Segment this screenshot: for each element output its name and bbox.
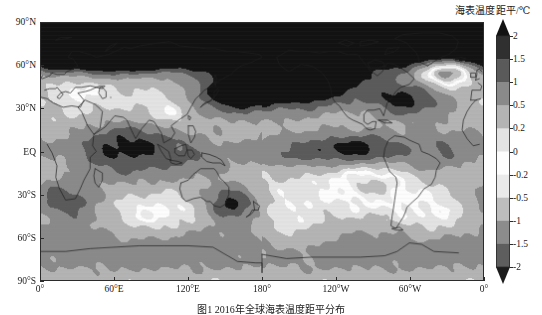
figure-caption: 图1 2016年全球海表温度距平分布 <box>0 301 542 315</box>
colorbar-band <box>496 59 510 83</box>
colorbar-band <box>496 221 510 245</box>
y-tick-label: 60°N <box>0 60 36 70</box>
x-tick-mark <box>114 277 115 281</box>
x-tick-label: 120°W <box>322 284 349 294</box>
x-tick-mark <box>188 277 189 281</box>
x-tick-label: 120°E <box>176 284 200 294</box>
x-tick-label: 180° <box>253 284 271 294</box>
colorbar-tick-mark <box>510 152 513 153</box>
colorbar-extend-max <box>496 19 510 36</box>
y-tick-label: 90°N <box>0 17 36 27</box>
colorbar-tick-mark <box>510 221 513 222</box>
colorbar-tick-mark <box>510 105 513 106</box>
colorbar-tick-mark <box>510 244 513 245</box>
colorbar-band <box>496 175 510 199</box>
y-tick-mark <box>40 22 44 23</box>
y-tick-label: 90°S <box>0 276 36 286</box>
x-tick-label: 60°E <box>104 284 123 294</box>
colorbar-band <box>496 128 510 152</box>
figure-sst-anomaly-map: 海表温度距平/℃ 90°N60°N30°NEQ30°S60°S90°S 0°60… <box>0 0 542 315</box>
colorbar-tick-mark <box>510 128 513 129</box>
colorbar-band <box>496 36 510 60</box>
y-tick-label: 30°N <box>0 103 36 113</box>
x-tick-mark <box>262 277 263 281</box>
colorbar-tick-label: 1.5 <box>513 54 525 64</box>
x-tick-mark <box>410 277 411 281</box>
colorbar-tick-label: -1.5 <box>513 239 528 249</box>
x-tick-mark <box>40 277 41 281</box>
x-tick-label: 0° <box>480 284 489 294</box>
colorbar-tick-label: 0 <box>513 147 518 157</box>
y-tick-label: EQ <box>0 147 36 157</box>
colorbar-tick-label: 1 <box>513 77 518 87</box>
colorbar-tick-label: 0.2 <box>513 123 525 133</box>
x-tick-label: 0° <box>36 284 45 294</box>
x-tick-mark <box>336 277 337 281</box>
colorbar-title: 海表温度距平/℃ <box>443 2 542 17</box>
colorbar-tick-label: -0.2 <box>513 170 528 180</box>
colorbar-tick-mark <box>510 175 513 176</box>
colorbar-tick-label: 0.5 <box>513 100 525 110</box>
colorbar-tick-label: -2 <box>513 262 521 272</box>
colorbar-band <box>496 152 510 176</box>
colorbar-tick-label: -1 <box>513 216 521 226</box>
x-tick-mark <box>484 277 485 281</box>
colorbar-band <box>496 198 510 222</box>
map-plot-area <box>40 22 484 281</box>
colorbar-tick-mark <box>510 59 513 60</box>
y-tick-label: 30°S <box>0 190 36 200</box>
colorbar-band <box>496 105 510 129</box>
colorbar-band <box>496 244 510 268</box>
colorbar-tick-mark <box>510 82 513 83</box>
colorbar-extend-min <box>496 267 510 284</box>
x-tick-label: 60°W <box>399 284 421 294</box>
y-tick-mark <box>40 65 44 66</box>
colorbar-tick-label: -0.5 <box>513 193 528 203</box>
colorbar-tick-mark <box>510 267 513 268</box>
y-tick-label: 60°S <box>0 233 36 243</box>
y-tick-mark <box>40 281 44 282</box>
colorbar-gradient <box>496 19 510 284</box>
y-tick-mark <box>40 238 44 239</box>
map-canvas <box>41 23 483 280</box>
colorbar-band <box>496 82 510 106</box>
y-tick-mark <box>40 195 44 196</box>
colorbar-tick-mark <box>510 198 513 199</box>
colorbar-tick-label: 2 <box>513 31 518 41</box>
colorbar <box>496 19 510 284</box>
y-tick-mark <box>40 152 44 153</box>
colorbar-tick-mark <box>510 36 513 37</box>
y-tick-mark <box>40 108 44 109</box>
